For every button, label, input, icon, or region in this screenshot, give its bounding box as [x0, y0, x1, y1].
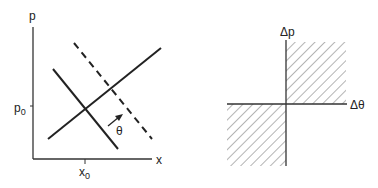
p0-tick-label: p0 — [14, 101, 26, 117]
diagram-canvas: p x p0 x0 θ Δp Δθ — [0, 0, 378, 188]
falling-line — [53, 69, 118, 149]
right-plot: Δp Δθ — [227, 25, 365, 166]
x0-tick-label: x0 — [79, 165, 90, 181]
hatched-upper-right-quadrant — [286, 42, 346, 104]
theta-label: θ — [116, 124, 123, 138]
delta-theta-label: Δθ — [350, 98, 365, 112]
left-plot: p x p0 x0 θ — [14, 9, 162, 181]
rising-line — [48, 48, 161, 139]
y-axis-label: p — [29, 9, 36, 23]
x-axis-label: x — [156, 153, 162, 167]
hatched-lower-left-quadrant — [227, 104, 286, 166]
shifted-falling-dashed-line — [74, 43, 152, 139]
delta-p-label: Δp — [280, 25, 295, 39]
